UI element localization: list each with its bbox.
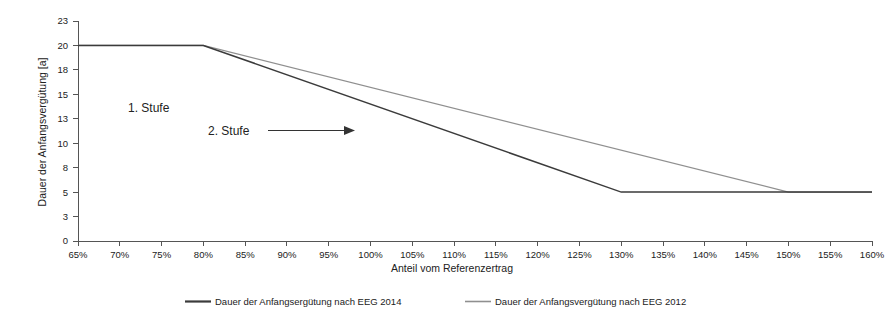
x-tick-label: 65% <box>68 249 88 260</box>
x-tick-label: 140% <box>693 249 718 260</box>
x-tick-label: 85% <box>236 249 256 260</box>
y-tick-label: 10 <box>57 138 68 149</box>
x-tick-label: 105% <box>400 249 425 260</box>
y-axis-title-group: Dauer der Anfangsvergütung [a] <box>36 57 48 206</box>
x-tick-label: 70% <box>110 249 130 260</box>
x-axis-ticks: 65%70%75%80%85%90%95%100%105%110%115%120… <box>68 241 884 260</box>
annotation-arrow-head <box>344 126 355 135</box>
legend-label: Dauer der Anfangsvergütung nach EEG 2012 <box>495 296 686 307</box>
series-line-eeg-2012 <box>78 45 872 192</box>
line-chart: Dauer der Anfangsvergütung [a] Anteil vo… <box>0 0 886 325</box>
x-tick-label: 135% <box>651 249 676 260</box>
y-axis-title: Dauer der Anfangsvergütung [a] <box>36 57 48 206</box>
y-tick-label: 23 <box>57 15 68 26</box>
y-tick-label: 18 <box>57 64 68 75</box>
annotation-2-stufe: 2. Stufe <box>208 124 355 138</box>
y-tick-label: 5 <box>63 187 68 198</box>
x-axis-title-group: Anteil vom Referenzertrag <box>391 262 513 274</box>
x-tick-label: 80% <box>194 249 214 260</box>
series-line-eeg-2014 <box>78 45 872 192</box>
x-tick-label: 95% <box>319 249 339 260</box>
y-tick-label: 0 <box>63 235 68 246</box>
x-tick-label: 155% <box>818 249 843 260</box>
x-tick-label: 120% <box>526 249 551 260</box>
chart-legend: Dauer der Anfangsergütung nach EEG 2014D… <box>185 296 686 307</box>
x-tick-label: 100% <box>358 249 383 260</box>
x-tick-label: 125% <box>567 249 592 260</box>
y-tick-label: 8 <box>63 162 68 173</box>
x-tick-label: 130% <box>609 249 634 260</box>
y-tick-label: 13 <box>57 113 68 124</box>
y-tick-label: 20 <box>57 40 68 51</box>
x-tick-label: 115% <box>484 249 508 260</box>
legend-label: Dauer der Anfangsergütung nach EEG 2014 <box>215 296 401 307</box>
data-series-layer <box>78 45 872 192</box>
legend-item-eeg-2014: Dauer der Anfangsergütung nach EEG 2014 <box>185 296 401 307</box>
y-tick-label: 3 <box>63 211 68 222</box>
annotation-1-stufe: 1. Stufe <box>128 101 170 115</box>
x-tick-label: 75% <box>152 249 172 260</box>
legend-item-eeg-2012: Dauer der Anfangsvergütung nach EEG 2012 <box>465 296 686 307</box>
x-tick-label: 160% <box>860 249 885 260</box>
annotation-label-2-stufe: 2. Stufe <box>208 124 250 138</box>
chart-figure: Dauer der Anfangsvergütung [a] Anteil vo… <box>0 0 886 325</box>
x-tick-label: 90% <box>277 249 297 260</box>
y-axis-ticks: 2320181513108530 <box>57 15 78 246</box>
y-tick-label: 15 <box>57 89 68 100</box>
x-tick-label: 110% <box>442 249 466 260</box>
x-axis-title: Anteil vom Referenzertrag <box>391 262 513 274</box>
annotation-label-1-stufe: 1. Stufe <box>128 101 170 115</box>
x-tick-label: 150% <box>776 249 801 260</box>
x-tick-label: 145% <box>734 249 759 260</box>
